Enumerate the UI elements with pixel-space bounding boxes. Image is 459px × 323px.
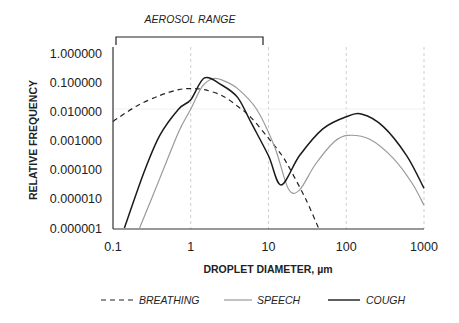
y-tick-label: 0.000100	[50, 163, 102, 177]
series-cough	[124, 77, 424, 228]
x-tick-label: 10	[262, 240, 276, 254]
x-tick-label: 1	[187, 240, 194, 254]
legend-breathing-label: BREATHING	[139, 294, 199, 306]
x-tick-labels: 0.11101001000	[104, 240, 438, 254]
legend-speech-label: SPEECH	[257, 294, 301, 306]
y-axis-title: RELATIVE FREQUENCY	[27, 80, 39, 200]
x-axis-title: DROPLET DIAMETER, µm	[203, 263, 332, 275]
aerosol-range-label: AEROSOL RANGE	[144, 13, 237, 25]
y-tick-label: 0.001000	[50, 134, 102, 148]
series-breathing	[113, 89, 319, 228]
y-tick-label: 1.000000	[50, 47, 102, 61]
y-tick-labels: 1.0000000.1000000.0100000.0010000.000100…	[50, 47, 102, 236]
chart: AEROSOL RANGE 1.0000000.1000000.0100000.…	[0, 0, 459, 323]
legend-cough-label: COUGH	[366, 294, 406, 306]
y-tick-label: 0.000010	[50, 192, 102, 206]
y-tick-label: 0.100000	[50, 76, 102, 90]
y-tick-label: 0.010000	[50, 105, 102, 119]
legend: BREATHING SPEECH COUGH	[101, 294, 406, 306]
aerosol-range-bracket	[116, 37, 263, 45]
x-tick-label: 0.1	[104, 240, 121, 254]
y-tick-label: 0.000001	[50, 222, 102, 236]
series-speech	[140, 78, 424, 228]
x-tick-label: 1000	[410, 240, 438, 254]
x-tick-label: 100	[336, 240, 357, 254]
